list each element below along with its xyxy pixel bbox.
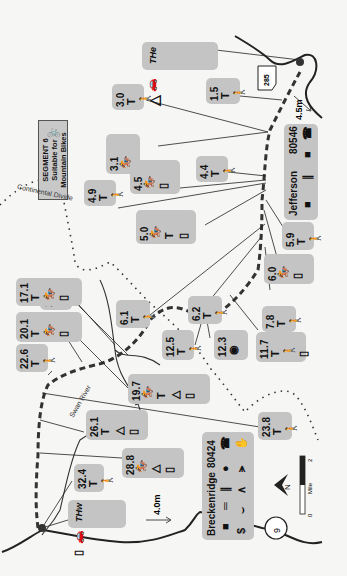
trail-sign-icon: Τ bbox=[126, 98, 137, 105]
east-trailhead-marker bbox=[296, 58, 304, 66]
camera-icon: ◉ bbox=[228, 345, 239, 355]
waypoint-box-mile-12-5[interactable]: 12.5Τ🚶 bbox=[162, 330, 194, 360]
waypoint-box-mile-26-1[interactable]: 26.1Τ△▯ bbox=[86, 410, 148, 440]
hiker-icon: 🚶 bbox=[112, 187, 123, 201]
car-icon: 🚗 bbox=[73, 530, 84, 544]
atm-icon: $ bbox=[236, 528, 247, 534]
waypoint-box-mile-1-5[interactable]: 1.5Τ🚶 bbox=[206, 78, 240, 104]
town-breckenridge-zip: 80424 bbox=[206, 440, 217, 468]
horse-hiker-icon: 🏇 bbox=[142, 385, 153, 399]
phone-icon: ☎ bbox=[220, 436, 231, 450]
campsite-icon: ∧ bbox=[236, 486, 247, 494]
town-jefferson-box[interactable]: Jefferson 80546 ☎ ■ ∥ ■ bbox=[284, 124, 318, 220]
waypoint-box-mile-11-7[interactable]: 11.7Τ🚶▯ bbox=[256, 332, 306, 362]
shower-icon: ⌣ bbox=[236, 507, 247, 514]
distance-west-label: 4.0m bbox=[152, 494, 162, 515]
water-icon: ▯ bbox=[292, 273, 303, 279]
trail-sign-icon: Τ bbox=[30, 360, 41, 367]
waypoint-box-mile-6-2[interactable]: 6.2Τ🚶 bbox=[188, 296, 222, 324]
waypoint-box-mile-3-0[interactable]: 3.0Τ🚶 bbox=[112, 84, 144, 110]
trail-sign-icon: Τ bbox=[164, 232, 175, 239]
water-icon: ▯ bbox=[184, 393, 195, 399]
hiker-icon: 🚶 bbox=[284, 343, 295, 357]
waypoint-box-mile-23-8[interactable]: 23.8Τ🚶 bbox=[258, 412, 292, 440]
post-office-icon: ■ bbox=[220, 523, 231, 530]
distance-east-label: 4.5m bbox=[294, 99, 304, 120]
hiker-icon: 🚶 bbox=[190, 341, 201, 355]
trail-sign-icon: Τ bbox=[88, 480, 99, 487]
waypoint-box-mile-6-0[interactable]: 6.0🏇▯ bbox=[264, 254, 314, 284]
water-icon: ▯ bbox=[58, 295, 69, 301]
water-icon: ▯ bbox=[73, 550, 84, 556]
highway-285-label: 285 bbox=[263, 74, 270, 86]
trail-sign-icon: Τ bbox=[130, 316, 141, 323]
waypoint-box-mile-12-3[interactable]: 12.3◉ bbox=[214, 330, 248, 360]
trail-sign-icon: Τ bbox=[30, 294, 41, 301]
water-icon: ▯ bbox=[164, 467, 175, 473]
waypoint-box-mile-5-9[interactable]: 5.9Τ🚶 bbox=[282, 222, 314, 250]
waypoint-box-mile-7-8[interactable]: 7.8Τ🚶 bbox=[262, 306, 296, 332]
waypoint-box-mile-20-1[interactable]: 20.1Τ🏇▯ bbox=[16, 312, 82, 342]
camping-supplies-icon: ⪫ bbox=[236, 466, 247, 472]
horse-hiker-icon: 🏇 bbox=[44, 323, 55, 337]
trail-sign-icon: Τ bbox=[98, 194, 109, 201]
waypoint-box-mile-4-5[interactable]: 4.5🏇▯ bbox=[130, 160, 180, 194]
waypoint-box-mile-28-8[interactable]: 28.8🏇△▯ bbox=[122, 448, 184, 478]
campsite-icon: △ bbox=[170, 391, 181, 399]
town-breckenridge-box[interactable]: Breckenridge 80424 ☎ ● ∥ ═ ■ ✋ ⪫ ∧ ⌣ $ bbox=[202, 432, 254, 540]
scale-start-label: 0 bbox=[307, 514, 313, 517]
waypoint-box-mile-19-7[interactable]: 19.7🏇Τ△▯ bbox=[128, 374, 210, 404]
hiker-icon: 🚶 bbox=[102, 473, 113, 487]
hiker-icon: 🚶 bbox=[234, 85, 245, 99]
highway-9-label: 9 bbox=[272, 528, 282, 533]
trail-sign-icon: Τ bbox=[220, 92, 231, 99]
grocery-icon: ● bbox=[220, 465, 231, 472]
trail-sign-icon: Τ bbox=[202, 312, 213, 319]
west-trailhead-marker bbox=[38, 524, 46, 532]
trail-sign-icon: Τ bbox=[156, 392, 167, 399]
horse-hiker-icon: 🏇 bbox=[136, 459, 147, 473]
hiker-icon: 🚶 bbox=[216, 305, 227, 319]
trail-sign-icon: Τ bbox=[100, 428, 111, 435]
trail-sign-icon: Τ bbox=[270, 350, 281, 357]
hiker-icon: 🚶 bbox=[140, 91, 151, 105]
trailhead-west-box[interactable]: THw 🚗 ▯ bbox=[68, 500, 126, 528]
campsite-icon: △ bbox=[114, 427, 125, 435]
horse-hiker-icon: 🏇 bbox=[144, 175, 155, 189]
hiker-icon: 🚶 bbox=[310, 231, 321, 245]
waypoint-box-mile-6-1[interactable]: 6.1Τ🚶 bbox=[116, 300, 150, 328]
town-jefferson-zip: 80546 bbox=[288, 126, 299, 154]
food-icon: ∥ bbox=[302, 174, 313, 180]
scale-end-label: 2 bbox=[307, 459, 313, 462]
grocery-icon: ■ bbox=[302, 151, 313, 158]
trail-sign-icon: Τ bbox=[276, 320, 287, 327]
post-office-icon: ■ bbox=[302, 201, 313, 208]
town-breckenridge-name: Breckenridge bbox=[206, 472, 217, 536]
trailhead-east-box[interactable]: THe 🚗 △ bbox=[142, 42, 218, 70]
water-icon: ▯ bbox=[178, 233, 189, 239]
trailhead-west-label: THw bbox=[74, 503, 84, 522]
scale-unit-label: Mile bbox=[307, 483, 313, 494]
north-label: N bbox=[283, 484, 292, 490]
trail-sign-icon: Τ bbox=[176, 348, 187, 355]
food-icon: ∥ bbox=[220, 486, 231, 492]
highway-285-road bbox=[235, 36, 322, 118]
town-jefferson-name: Jefferson bbox=[288, 171, 299, 216]
bicycle-icon: 🚲 bbox=[47, 125, 61, 138]
water-icon: ▯ bbox=[158, 183, 169, 189]
waypoint-box-mile-4-9[interactable]: 4.9Τ🚶 bbox=[84, 180, 116, 206]
water-icon: ▯ bbox=[58, 331, 69, 337]
campsite-icon: △ bbox=[150, 465, 161, 473]
water-icon: ▯ bbox=[298, 351, 309, 357]
lodging-icon: ═ bbox=[220, 502, 231, 510]
waypoint-box-mile-32-4[interactable]: 32.4Τ🚶 bbox=[74, 464, 104, 492]
trailhead-east-label: THe bbox=[148, 47, 158, 64]
waypoint-box-mile-5-0[interactable]: 5.0🏇Τ▯ bbox=[136, 210, 196, 244]
hiker-icon: 🚶 bbox=[286, 421, 297, 435]
horse-hiker-icon: 🏇 bbox=[278, 265, 289, 279]
waypoint-box-mile-17-1[interactable]: 17.1Τ🏇▯ bbox=[16, 278, 82, 306]
trail-sign-icon: Τ bbox=[296, 238, 307, 245]
waypoint-box-mile-22-6[interactable]: 22.6Τ🚶 bbox=[16, 344, 48, 372]
waypoint-box-mile-4-4[interactable]: 4.4Τ🚶 bbox=[196, 156, 228, 182]
hiker-icon: 🚶 bbox=[224, 163, 235, 177]
